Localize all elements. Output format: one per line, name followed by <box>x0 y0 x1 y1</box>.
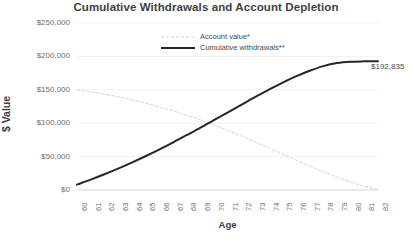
x-axis-tick-label: 60 <box>80 203 89 211</box>
x-axis-tick-label: 72 <box>244 203 253 211</box>
x-axis-tick-label: 68 <box>189 203 198 211</box>
x-axis-tick-label: 75 <box>285 203 294 211</box>
end-value-label: $192,835 <box>371 62 404 71</box>
x-axis-tick-label: 69 <box>203 203 212 211</box>
chart-container: Cumulative Withdrawals and Account Deple… <box>0 0 412 240</box>
chart-legend: Account value*Cumulative withdrawals** <box>160 31 340 53</box>
x-axis-tick-label: 81 <box>367 203 376 211</box>
x-axis-tick-label: 71 <box>231 203 240 211</box>
x-axis-tick-label: 65 <box>148 203 157 211</box>
x-axis-tick-label: 62 <box>107 203 116 211</box>
x-axis-tick-label: 74 <box>272 203 281 211</box>
x-axis-tick-label: 64 <box>135 203 144 211</box>
x-axis-tick-label: 80 <box>354 203 363 211</box>
x-axis-tick-label: 61 <box>94 203 103 211</box>
x-axis-tick-label: 66 <box>162 203 171 211</box>
legend-swatch-icon <box>160 44 196 52</box>
x-axis-tick-label: 82 <box>381 203 390 211</box>
x-axis-tick-label: 77 <box>313 203 322 211</box>
legend-label: Account value* <box>200 32 250 41</box>
legend-label: Cumulative withdrawals** <box>200 43 285 52</box>
x-axis-tick-label: 70 <box>217 203 226 211</box>
x-axis-tick-label: 73 <box>258 203 267 211</box>
x-axis-tick-label: 67 <box>176 203 185 211</box>
x-axis-tick-label: 63 <box>121 203 130 211</box>
x-axis-tick-label: 76 <box>299 203 308 211</box>
legend-item: Account value* <box>160 31 340 42</box>
legend-item: Cumulative withdrawals** <box>160 42 340 53</box>
x-axis-tick-label: 79 <box>340 203 349 211</box>
x-axis-title: Age <box>77 219 378 230</box>
legend-swatch-icon <box>160 33 196 41</box>
x-axis-tick-label: 78 <box>326 203 335 211</box>
